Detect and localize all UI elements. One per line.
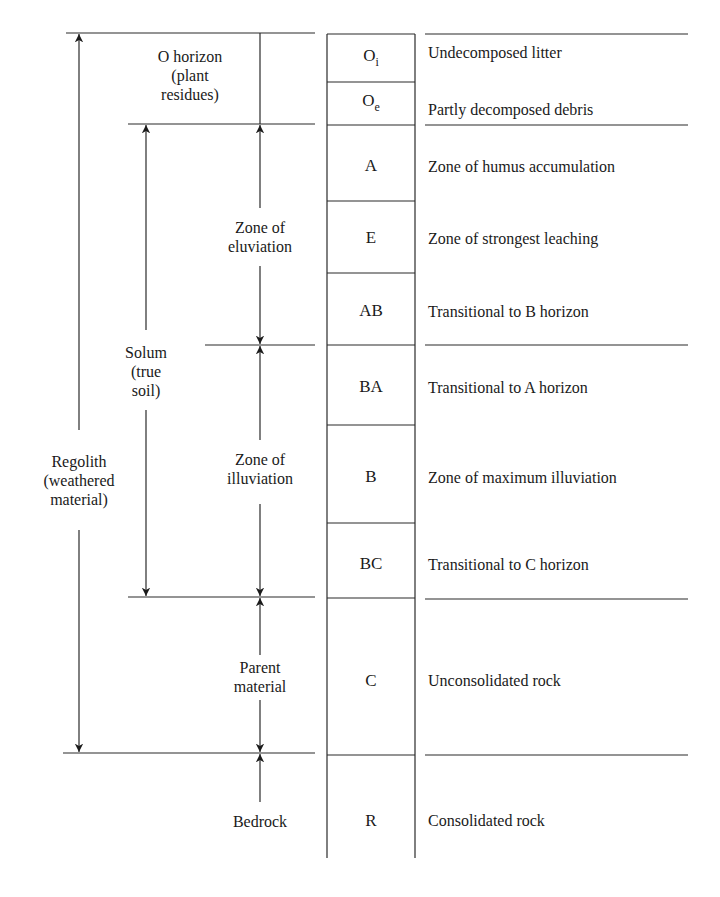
solum-line2: (true (125, 362, 167, 381)
horizon-desc-e: Zone of strongest leaching (428, 230, 598, 248)
illuviation-label: Zone of illuviation (226, 450, 294, 488)
o-horizon-line3: residues) (158, 85, 222, 104)
horizon-desc-c: Unconsolidated rock (428, 672, 561, 690)
horizon-code-c: C (365, 671, 376, 691)
illuviation-line2: illuviation (227, 469, 293, 488)
horizon-code-r: R (365, 811, 376, 831)
horizon-code-e: E (366, 228, 376, 248)
solum-label: Solum (true soil) (124, 343, 168, 400)
horizon-desc-ab: Transitional to B horizon (428, 303, 589, 321)
parent-line1: Parent (234, 658, 286, 677)
bedrock-label: Bedrock (232, 812, 288, 831)
parent-line2: material (234, 677, 286, 696)
regolith-line1: Regolith (43, 452, 114, 471)
horizon-code-ba: BA (359, 377, 383, 397)
bedrock-line1: Bedrock (233, 812, 287, 831)
horizon-code-oi: Oi (363, 46, 379, 70)
horizon-desc-bc: Transitional to C horizon (428, 556, 589, 574)
horizon-desc-a: Zone of humus accumulation (428, 158, 615, 176)
solum-line3: soil) (125, 381, 167, 400)
eluviation-label: Zone of eluviation (227, 218, 293, 256)
horizon-desc-b: Zone of maximum illuviation (428, 469, 617, 487)
illuviation-line1: Zone of (227, 450, 293, 469)
solum-line1: Solum (125, 343, 167, 362)
regolith-label: Regolith (weathered material) (42, 452, 115, 509)
parent-material-label: Parent material (233, 658, 287, 696)
regolith-line3: material) (43, 490, 114, 509)
o-horizon-label: O horizon (plant residues) (157, 47, 223, 104)
regolith-line2: (weathered (43, 471, 114, 490)
horizon-code-ab: AB (359, 301, 383, 321)
horizon-code-a: A (365, 156, 377, 176)
horizon-desc-ba: Transitional to A horizon (428, 379, 588, 397)
o-horizon-line1: O horizon (158, 47, 222, 66)
eluviation-line1: Zone of (228, 218, 292, 237)
soil-profile-lines (0, 0, 720, 897)
horizon-desc-r: Consolidated rock (428, 812, 545, 830)
horizon-code-b: B (365, 467, 376, 487)
horizon-code-bc: BC (360, 554, 383, 574)
eluviation-line2: eluviation (228, 237, 292, 256)
o-horizon-line2: (plant (158, 66, 222, 85)
horizon-desc-oi: Undecomposed litter (428, 44, 562, 62)
horizon-desc-oe: Partly decomposed debris (428, 101, 593, 119)
horizon-code-oe: Oe (362, 91, 380, 115)
